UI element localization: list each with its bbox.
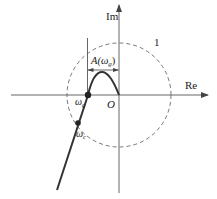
omega-c-point (75, 120, 81, 126)
real-axis-label: Re (185, 79, 197, 91)
gain-margin-label: A(ωg) (90, 55, 116, 68)
unit-circle-radius-label: 1 (154, 36, 160, 48)
nyquist-diagram: Im Re O 1 A(ωg) ωg ωc (0, 0, 217, 199)
omega-g-point (85, 92, 91, 98)
omega-c-label: ωc (76, 128, 86, 140)
omega-g-label: ωg (75, 96, 86, 108)
imaginary-axis-label: Im (106, 10, 119, 22)
nyquist-curve (57, 72, 119, 190)
origin-label: O (107, 98, 115, 110)
